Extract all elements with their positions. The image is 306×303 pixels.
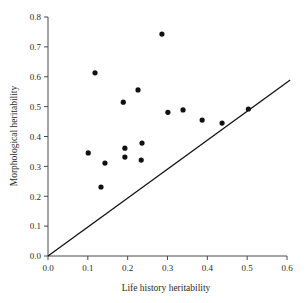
scatter-point xyxy=(165,110,170,115)
scatter-point xyxy=(98,184,103,189)
y-tick-label: 0.1 xyxy=(30,221,41,231)
reference-line-segment xyxy=(48,80,290,256)
x-tick-label: 0.3 xyxy=(162,263,174,273)
y-tick-label: 0.2 xyxy=(30,192,41,202)
scatter-point xyxy=(92,70,97,75)
y-tick-label: 0.0 xyxy=(30,251,42,261)
y-tick-label: 0.6 xyxy=(30,72,42,82)
scatter-point xyxy=(246,106,251,111)
scatter-point xyxy=(180,107,185,112)
x-tick-label: 0.6 xyxy=(281,263,293,273)
y-tick-label: 0.4 xyxy=(30,132,42,142)
scatter-point xyxy=(139,158,144,163)
data-points xyxy=(86,31,251,189)
y-tick-label: 0.7 xyxy=(30,42,42,52)
scatter-point xyxy=(122,155,127,160)
x-tick-label: 0.2 xyxy=(122,263,133,273)
plot-canvas: 0.00.10.20.30.40.50.6 0.00.10.20.30.40.5… xyxy=(0,0,306,303)
scatter-point xyxy=(135,87,140,92)
y-tick-label: 0.3 xyxy=(30,162,42,172)
scatter-point xyxy=(159,31,164,36)
scatter-point xyxy=(219,120,224,125)
x-tick-label: 0.1 xyxy=(82,263,93,273)
y-tick-label: 0.5 xyxy=(30,102,42,112)
x-axis-title: Life history heritability xyxy=(122,283,211,293)
y-axis-tick-labels: 0.00.10.20.30.40.50.60.70.8 xyxy=(30,12,42,261)
scatter-point xyxy=(86,150,91,155)
scatter-point xyxy=(102,160,107,165)
y-axis-title: Morphological heritability xyxy=(9,85,19,186)
axes xyxy=(44,17,287,260)
scatter-point xyxy=(139,140,144,145)
x-tick-label: 0.4 xyxy=(202,263,214,273)
x-tick-label: 0.0 xyxy=(42,263,54,273)
scatter-plot-figure: 0.00.10.20.30.40.50.6 0.00.10.20.30.40.5… xyxy=(0,0,306,303)
scatter-point xyxy=(121,100,126,105)
x-tick-label: 0.5 xyxy=(242,263,254,273)
x-axis-tick-labels: 0.00.10.20.30.40.50.6 xyxy=(42,263,293,273)
identity-reference-line xyxy=(48,80,290,256)
y-tick-label: 0.8 xyxy=(30,12,42,22)
scatter-point xyxy=(200,117,205,122)
scatter-point xyxy=(122,146,127,151)
